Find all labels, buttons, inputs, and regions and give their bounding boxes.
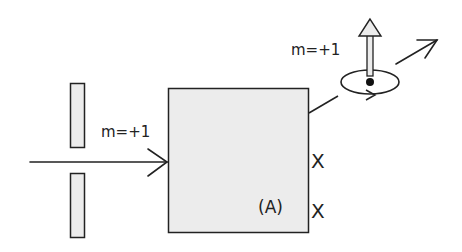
slit-top-plate: [71, 84, 85, 148]
incoming-label: m=+1: [101, 123, 150, 141]
incoming-arrow: [30, 149, 167, 176]
slit-bottom-plate: [71, 174, 85, 238]
emission-line: [309, 96, 338, 113]
x-mark-1: X: [311, 149, 325, 173]
spin-arrow-head-icon: [359, 19, 381, 36]
outgoing-arrow: [396, 40, 437, 64]
box-a: [169, 89, 309, 233]
box-label: (A): [258, 197, 283, 217]
diagram-canvas: m=+1 m=+1 X X (A): [0, 0, 462, 252]
rotation-arrow-icon: [366, 90, 375, 100]
outgoing-label: m=+1: [291, 41, 340, 59]
spin-arrow-stem: [367, 35, 373, 76]
x-mark-2: X: [311, 199, 325, 223]
particle-dot: [366, 78, 374, 86]
rotating-particle: [341, 19, 399, 100]
